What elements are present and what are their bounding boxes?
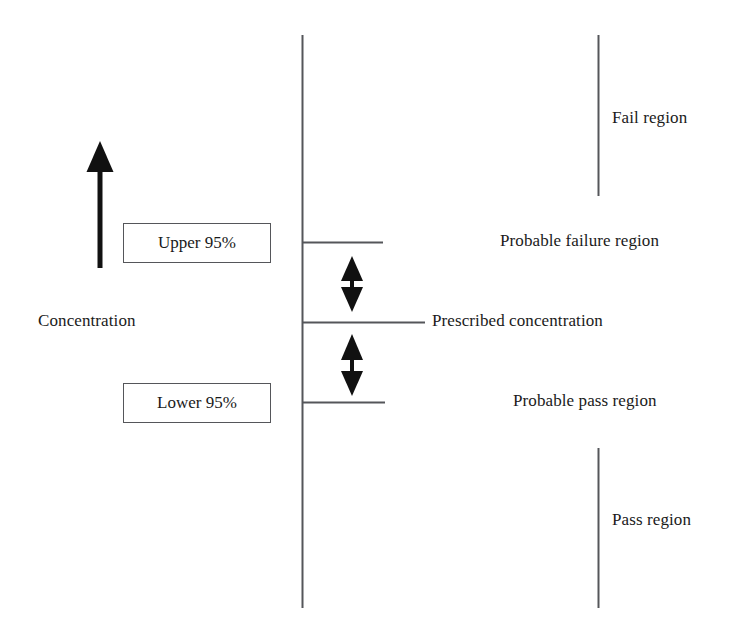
concentration-axis-label: Concentration (38, 312, 136, 329)
concentration-region-diagram: Upper 95% Lower 95% Concentration Fail r… (0, 0, 734, 641)
upper-interval-double-arrow-icon (341, 256, 363, 312)
lower-95-label-box: Lower 95% (123, 383, 271, 423)
lower-interval-double-arrow-icon (341, 334, 363, 396)
fail-region-label: Fail region (612, 109, 687, 126)
upper-95-label-box: Upper 95% (123, 223, 271, 263)
concentration-up-arrow-icon (87, 141, 114, 268)
probable-pass-region-label: Probable pass region (513, 392, 657, 409)
lower-95-label-text: Lower 95% (157, 393, 237, 413)
upper-95-label-text: Upper 95% (158, 233, 236, 253)
probable-failure-region-label: Probable failure region (500, 232, 659, 249)
pass-region-label: Pass region (612, 511, 691, 528)
prescribed-concentration-label: Prescribed concentration (432, 312, 603, 329)
